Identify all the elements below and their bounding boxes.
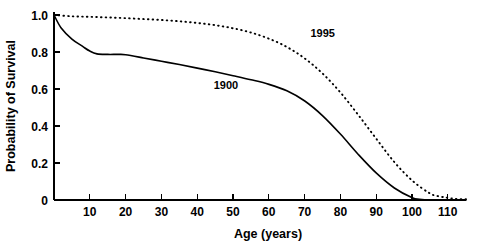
x-tick-label: 110 <box>438 205 458 219</box>
survival-probability-chart: 1.0 0.8 0.6 0.4 0.2 0 10 20 30 40 50 <box>0 0 480 244</box>
x-tick-label: 30 <box>155 205 169 219</box>
series-annotation-1995: 1995 <box>310 27 334 39</box>
x-axis-title: Age (years) <box>234 227 302 241</box>
x-axis-tick-labels: 10 20 30 40 50 60 70 80 90 100 110 <box>83 205 458 219</box>
chart-svg: 1.0 0.8 0.6 0.4 0.2 0 10 20 30 40 50 <box>0 0 480 244</box>
y-tick-label: 1.0 <box>31 9 48 23</box>
x-tick-label: 70 <box>298 205 312 219</box>
y-tick-label: 0.4 <box>31 120 48 134</box>
y-axis-ticks <box>54 15 60 163</box>
x-axis-ticks <box>90 194 448 200</box>
x-tick-label: 50 <box>226 205 240 219</box>
x-tick-label: 90 <box>370 205 384 219</box>
x-tick-label: 60 <box>262 205 276 219</box>
series-line-1995 <box>54 15 466 199</box>
y-tick-label: 0 <box>41 194 48 208</box>
y-tick-label: 0.6 <box>31 83 48 97</box>
x-tick-label: 10 <box>83 205 97 219</box>
x-tick-label: 100 <box>402 205 422 219</box>
series-annotation-1900: 1900 <box>214 79 238 91</box>
x-tick-label: 80 <box>334 205 348 219</box>
y-tick-label: 0.2 <box>31 157 48 171</box>
x-tick-label: 20 <box>119 205 133 219</box>
y-axis-tick-labels: 1.0 0.8 0.6 0.4 0.2 0 <box>31 9 48 208</box>
y-tick-label: 0.8 <box>31 46 48 60</box>
y-axis-title: Probability of Survival <box>4 40 18 172</box>
x-tick-label: 40 <box>191 205 205 219</box>
